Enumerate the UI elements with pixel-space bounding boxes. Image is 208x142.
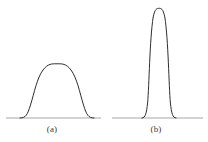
- figure-container: (a) (b): [0, 0, 208, 142]
- panel-b: (b): [104, 0, 208, 142]
- narrow-tall-bell-curve-plot: [104, 0, 208, 125]
- wide-flat-bell-curve-plot: [0, 0, 104, 125]
- caption-a: (a): [0, 123, 104, 135]
- caption-b: (b): [104, 123, 208, 135]
- curve-a-path: [20, 64, 94, 118]
- panel-a: (a): [0, 0, 104, 142]
- curve-b-path: [142, 8, 176, 118]
